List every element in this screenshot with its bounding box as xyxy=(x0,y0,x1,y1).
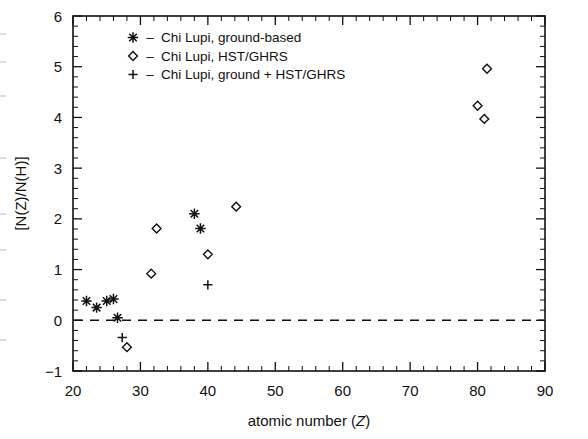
legend-dash: – xyxy=(146,67,154,82)
data-point-asterisk xyxy=(91,302,101,312)
data-point-plus xyxy=(118,333,127,342)
scatter-plot-figure: 2030405060708090−10123456atomic number (… xyxy=(0,0,588,439)
legend-entry-label: Chi Lupi, ground-based xyxy=(161,30,301,45)
data-point-diamond xyxy=(232,202,241,211)
legend-diamond-icon xyxy=(129,52,138,61)
plot-canvas: 2030405060708090−10123456atomic number (… xyxy=(0,0,588,439)
data-point-asterisk xyxy=(108,294,118,304)
x-tick-label: 70 xyxy=(402,382,419,399)
data-point-diamond xyxy=(203,250,212,259)
legend-entry-label: Chi Lupi, ground + HST/GHRS xyxy=(161,67,345,82)
x-tick-label: 80 xyxy=(469,382,486,399)
y-tick-label: −1 xyxy=(45,363,62,380)
data-point-diamond xyxy=(483,64,492,73)
y-tick-label: 2 xyxy=(54,210,62,227)
y-tick-label: 4 xyxy=(54,109,62,126)
y-tick-label: 1 xyxy=(54,261,62,278)
y-tick-label: 6 xyxy=(54,8,62,25)
data-point-diamond xyxy=(152,224,161,233)
legend-entry-label: Chi Lupi, HST/GHRS xyxy=(161,49,288,64)
data-point-asterisk xyxy=(81,296,91,306)
x-tick-label: 30 xyxy=(132,382,149,399)
legend-asterisk-icon xyxy=(128,32,138,42)
data-point-asterisk xyxy=(189,209,199,219)
x-axis-label: atomic number (Z) xyxy=(248,412,371,429)
data-point-diamond xyxy=(480,115,489,124)
x-tick-label: 60 xyxy=(334,382,351,399)
x-tick-label: 90 xyxy=(537,382,554,399)
x-tick-label: 20 xyxy=(65,382,82,399)
x-tick-label: 40 xyxy=(200,382,217,399)
legend-dash: – xyxy=(146,30,154,45)
data-point-asterisk xyxy=(102,296,112,306)
legend-dash: – xyxy=(146,49,154,64)
data-point-diamond xyxy=(123,343,132,352)
y-tick-label: 0 xyxy=(54,312,62,329)
data-point-diamond xyxy=(147,269,156,278)
x-tick-label: 50 xyxy=(267,382,284,399)
y-axis-label: [N(Z)/N(H)] xyxy=(12,156,29,230)
data-point-asterisk xyxy=(195,223,205,233)
legend-plus-icon xyxy=(128,70,137,79)
y-tick-label: 5 xyxy=(54,58,62,75)
y-tick-label: 3 xyxy=(54,160,62,177)
data-point-diamond xyxy=(473,101,482,110)
data-point-asterisk xyxy=(112,313,122,323)
data-point-plus xyxy=(203,280,212,289)
